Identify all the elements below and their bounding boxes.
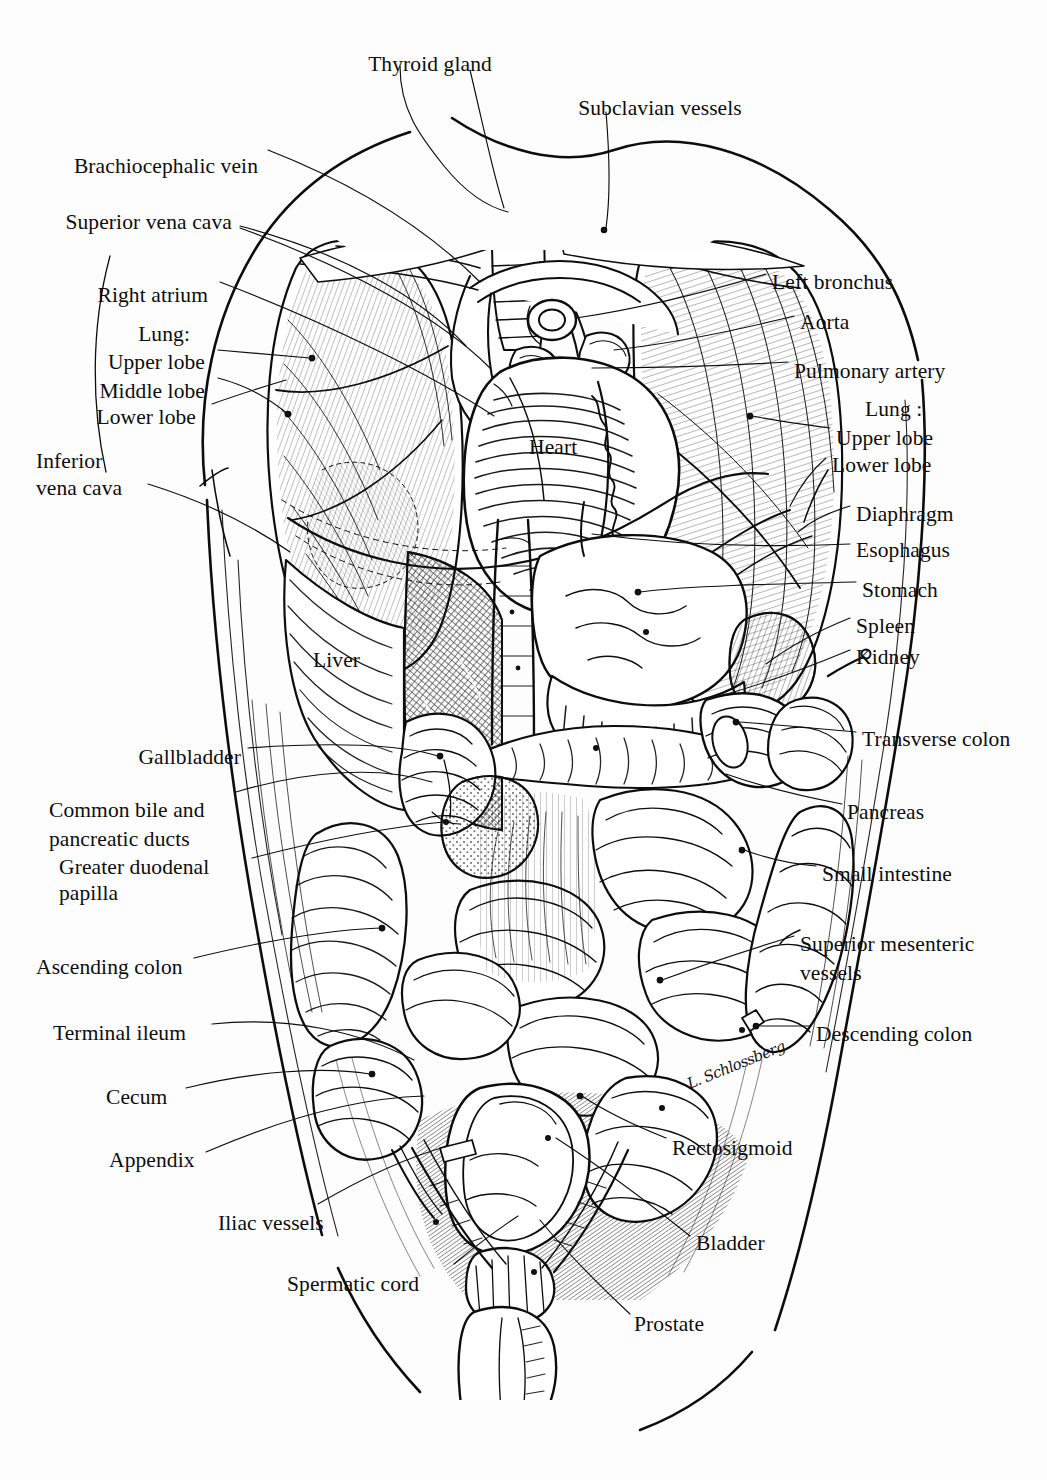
- label-inferior-vena-cava-l1: Inferior: [36, 449, 102, 474]
- label-liver: Liver: [313, 648, 360, 673]
- label-left-bronchus: Left bronchus: [772, 270, 893, 295]
- label-lower-lobe-left: Lower lobe: [832, 453, 932, 478]
- label-brachiocephalic-vein: Brachiocephalic vein: [74, 154, 258, 179]
- label-stomach: Stomach: [862, 578, 938, 603]
- label-kidney: Kidney: [856, 645, 920, 670]
- label-lung-left-heading: Lung :: [865, 397, 922, 422]
- label-upper-lobe-right: Upper lobe: [108, 350, 205, 375]
- label-greater-duodenal-l1: Greater duodenal: [59, 855, 209, 880]
- label-esophagus: Esophagus: [856, 538, 950, 563]
- label-greater-duodenal-l2: papilla: [59, 881, 118, 906]
- label-pancreas: Pancreas: [847, 800, 924, 825]
- label-lung-right-heading: Lung:: [138, 322, 190, 347]
- label-prostate: Prostate: [634, 1312, 704, 1337]
- label-common-bile-l1: Common bile and: [49, 798, 205, 823]
- label-aorta: Aorta: [800, 310, 849, 335]
- label-descending-colon: Descending colon: [816, 1022, 972, 1047]
- label-common-bile-l2: pancreatic ducts: [49, 827, 190, 852]
- label-terminal-ileum: Terminal ileum: [53, 1021, 186, 1046]
- label-ascending-colon: Ascending colon: [36, 955, 183, 980]
- label-transverse-colon: Transverse colon: [862, 727, 1010, 752]
- label-pulmonary-artery: Pulmonary artery: [794, 359, 945, 384]
- descending-colon: [739, 806, 854, 1052]
- label-superior-mesenteric-l2: vessels: [800, 961, 862, 986]
- label-lower-lobe-right: Lower lobe: [96, 405, 196, 430]
- label-superior-mesenteric-l1: Superior mesenteric: [800, 932, 974, 957]
- label-upper-lobe-left: Upper lobe: [836, 426, 933, 451]
- label-appendix: Appendix: [109, 1148, 195, 1173]
- label-rectosigmoid: Rectosigmoid: [672, 1136, 793, 1161]
- label-bladder: Bladder: [696, 1231, 765, 1256]
- label-inferior-vena-cava-l2: vena cava: [36, 476, 122, 501]
- label-heart: Heart: [529, 435, 577, 460]
- anatomical-plate: Thyroid glandSubclavian vesselsBrachioce…: [0, 0, 1047, 1480]
- label-iliac-vessels: Iliac vessels: [218, 1211, 324, 1236]
- label-spermatic-cord: Spermatic cord: [287, 1272, 419, 1297]
- label-middle-lobe-right: Middle lobe: [99, 379, 205, 404]
- label-superior-vena-cava: Superior vena cava: [65, 210, 232, 235]
- label-small-intestine: Small intestine: [822, 862, 952, 887]
- label-subclavian-vessels: Subclavian vessels: [578, 96, 742, 121]
- label-spleen: Spleen: [856, 614, 915, 639]
- label-diaphragm: Diaphragm: [856, 502, 954, 527]
- label-gallbladder: Gallbladder: [138, 745, 241, 770]
- label-cecum: Cecum: [106, 1085, 167, 1110]
- label-thyroid-gland: Thyroid gland: [368, 52, 492, 77]
- label-right-atrium: Right atrium: [98, 283, 209, 308]
